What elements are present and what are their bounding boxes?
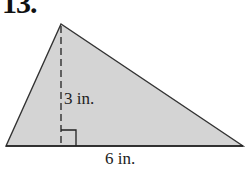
base-label: 6 in. — [105, 149, 135, 169]
triangle-shape — [6, 24, 243, 146]
triangle-figure — [0, 0, 252, 171]
height-label: 3 in. — [64, 89, 94, 109]
